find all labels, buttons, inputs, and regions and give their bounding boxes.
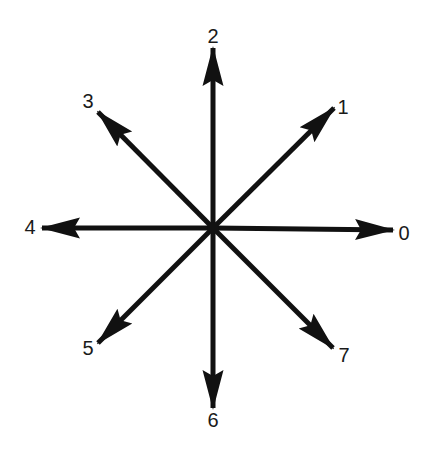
direction-label-4: 4 [24,216,35,238]
arrow-direction-3 [98,112,213,228]
arrow-direction-1 [213,108,334,228]
direction-compass-diagram: 01234567 [0,0,435,449]
arrow-direction-5 [98,228,213,343]
direction-label-3: 3 [82,90,93,112]
direction-label-7: 7 [338,344,349,366]
direction-label-6: 6 [207,409,218,431]
direction-label-2: 2 [207,25,218,47]
direction-label-1: 1 [337,96,348,118]
center-hub [207,222,219,234]
arrow-direction-0 [213,228,393,230]
arrow-direction-7 [213,228,333,348]
direction-label-5: 5 [82,337,93,359]
direction-label-0: 0 [398,222,409,244]
